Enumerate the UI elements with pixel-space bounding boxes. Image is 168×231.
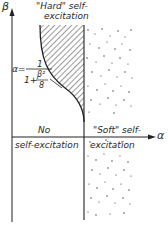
hard-label-line2: excitation	[44, 11, 89, 21]
alpha-axis-arrow-icon	[148, 135, 156, 140]
beta-axis-arrow-icon	[10, 8, 15, 16]
no-excitation-label-line1: No	[38, 125, 50, 135]
no-excitation-label-line2: self-excitation	[15, 140, 79, 150]
soft-label-line2: excitation	[90, 140, 135, 150]
hard-excitation-region	[40, 25, 84, 122]
soft-excitation-region	[86, 28, 132, 215]
hard-label-line1: "Hard" self-	[36, 1, 88, 11]
equation-sub-denominator: 8	[39, 81, 44, 91]
equation-denominator-prefix: 1+	[24, 75, 37, 85]
beta-axis-label: β	[2, 2, 9, 12]
diagram-canvas	[0, 0, 168, 231]
soft-label-line1: "Soft" self-	[93, 125, 141, 135]
alpha-axis-label: α	[157, 131, 164, 141]
equation-lhs: α=	[12, 64, 25, 74]
equation-numerator: 1	[37, 59, 43, 69]
equation-sub-numerator: β²	[37, 70, 45, 80]
